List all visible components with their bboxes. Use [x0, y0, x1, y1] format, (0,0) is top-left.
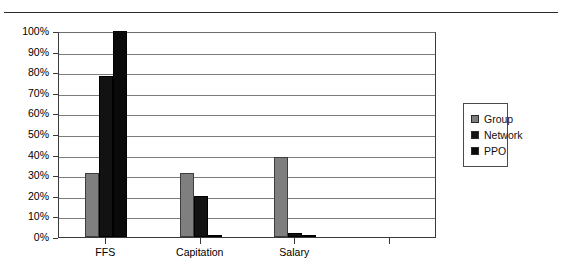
plot-area — [58, 32, 436, 238]
y-axis-tick-label: 90% — [28, 47, 49, 58]
y-axis-tick-mark — [53, 238, 58, 239]
bar-capitation-ppo — [208, 235, 222, 237]
x-axis-category-label: Salary — [279, 246, 309, 258]
bar-ffs-network — [99, 76, 113, 237]
bar-ffs-ppo — [113, 31, 127, 237]
x-axis-tick-mark — [105, 238, 106, 244]
x-axis-tick-mark — [294, 238, 295, 244]
bar-salary-group — [274, 157, 288, 237]
legend-swatch-network-icon — [471, 131, 479, 139]
bar-ffs-group — [85, 173, 99, 237]
y-axis-tick-label: 10% — [28, 211, 49, 222]
bar-salary-network — [288, 233, 302, 237]
legend-item-network: Network — [471, 127, 501, 143]
legend-label-ppo: PPO — [484, 145, 506, 157]
y-axis-tick-label: 100% — [22, 26, 49, 37]
legend-label-network: Network — [484, 129, 523, 141]
legend-item-ppo: PPO — [471, 143, 501, 159]
legend-swatch-group-icon — [471, 115, 479, 123]
y-axis-tick-label: 70% — [28, 88, 49, 99]
bar-salary-ppo — [302, 235, 316, 237]
y-axis-tick-label: 80% — [28, 67, 49, 78]
y-axis-tick-label: 20% — [28, 191, 49, 202]
x-axis-category-label: Capitation — [176, 246, 223, 258]
legend-swatch-ppo-icon — [471, 147, 479, 155]
legend-item-group: Group — [471, 111, 501, 127]
y-axis-tick-label: 0% — [34, 232, 49, 243]
y-axis-tick-label: 50% — [28, 129, 49, 140]
grouped-bar-chart: 0%10%20%30%40%50%60%70%80%90%100% FFSCap… — [0, 0, 562, 270]
x-axis-category-label: FFS — [95, 246, 115, 258]
y-axis-tick-label: 30% — [28, 170, 49, 181]
bar-capitation-network — [194, 196, 208, 237]
chart-legend: Group Network PPO — [463, 103, 508, 167]
y-axis-tick-label: 60% — [28, 108, 49, 119]
x-axis-tick-mark — [200, 238, 201, 244]
y-axis-tick-label: 40% — [28, 150, 49, 161]
x-axis-tick-mark — [389, 238, 390, 244]
legend-label-group: Group — [484, 113, 513, 125]
bar-capitation-group — [180, 173, 194, 237]
